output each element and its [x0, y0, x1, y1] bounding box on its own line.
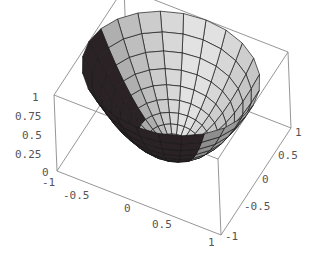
- surface-patch: [167, 85, 181, 101]
- z-tick-label: 0.5: [22, 129, 42, 142]
- y-tick-label: -1: [225, 230, 238, 243]
- box-edge: [288, 52, 291, 128]
- z-tick-label: 0.25: [15, 148, 42, 161]
- surface-plot: 1 0.75 0.5 0.25 0 -1 -0.5 0 0.5 1 -1 -0.…: [0, 0, 327, 257]
- surface-patch: [160, 11, 183, 34]
- y-tick-label: 0: [262, 173, 269, 186]
- box-edge: [221, 128, 291, 235]
- x-tick-label: 0: [124, 202, 131, 215]
- surface-patch: [138, 11, 162, 33]
- box-edge: [54, 95, 57, 171]
- y-tick-label: 1: [295, 126, 302, 139]
- paraboloid-surface: [82, 11, 259, 162]
- x-tick-label: -1: [42, 176, 55, 189]
- x-tick-label: 0.5: [152, 218, 172, 231]
- box-edge: [57, 171, 221, 235]
- z-tick-label: 1: [32, 91, 39, 104]
- x-tick-label: 1: [208, 236, 215, 249]
- y-tick-label: 0.5: [278, 149, 298, 162]
- box-edge: [218, 159, 221, 235]
- surface-patch: [168, 99, 180, 113]
- surface-patch: [164, 51, 183, 70]
- x-tick-label: -0.5: [63, 189, 90, 202]
- y-tick-label: -0.5: [244, 200, 271, 213]
- surface-patch: [165, 69, 181, 87]
- surface-patch: [181, 134, 204, 144]
- z-tick-label: 0.75: [15, 110, 42, 123]
- plot-canvas: 1 0.75 0.5 0.25 0 -1 -0.5 0 0.5 1 -1 -0.…: [0, 0, 327, 257]
- surface-patch: [162, 32, 183, 53]
